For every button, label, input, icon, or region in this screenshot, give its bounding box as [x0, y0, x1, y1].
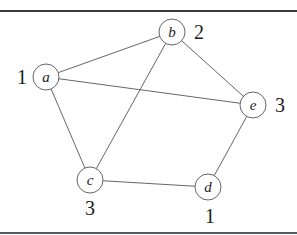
color-numbers-layer: 12313: [17, 21, 285, 227]
node-label: e: [250, 97, 257, 113]
color-number-c: 3: [85, 197, 95, 219]
node-c: c: [77, 167, 103, 193]
edges-layer: [46, 32, 253, 187]
node-label: d: [204, 179, 212, 195]
edge-c-d: [90, 180, 208, 187]
edge-b-c: [90, 32, 172, 180]
edge-e-d: [208, 105, 253, 187]
node-d: d: [195, 174, 221, 200]
edge-a-e: [46, 77, 253, 105]
nodes-layer: abcde: [33, 19, 266, 200]
node-label: a: [42, 69, 50, 85]
node-label: b: [168, 24, 176, 40]
node-e: e: [240, 92, 266, 118]
node-b: b: [159, 19, 185, 45]
edge-a-c: [46, 77, 90, 180]
edge-a-b: [46, 32, 172, 77]
color-number-d: 1: [205, 205, 215, 227]
graph-diagram: abcde 12313: [0, 0, 297, 235]
color-number-b: 2: [194, 21, 204, 43]
color-number-a: 1: [17, 66, 27, 88]
node-label: c: [87, 172, 94, 188]
color-number-e: 3: [275, 94, 285, 116]
node-a: a: [33, 64, 59, 90]
edge-b-e: [172, 32, 253, 105]
